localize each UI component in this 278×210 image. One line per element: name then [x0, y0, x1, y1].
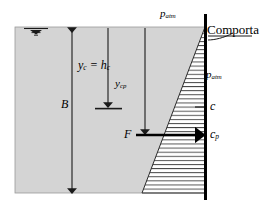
label-comporta: Comporta — [207, 23, 259, 36]
label-B: B — [61, 98, 68, 110]
label-ycp: ycp — [115, 78, 126, 90]
label-yc-equals-hc: yc = hc — [78, 59, 110, 72]
hydrostatic-gate-diagram: patm Comporta patm yc = hc ycp B F c cp — [0, 0, 278, 210]
label-cp: cp — [210, 128, 219, 141]
label-p-atm-right: patm — [206, 69, 222, 81]
label-c: c — [210, 100, 215, 112]
label-F: F — [124, 128, 131, 140]
label-p-atm-top: patm — [160, 8, 176, 20]
